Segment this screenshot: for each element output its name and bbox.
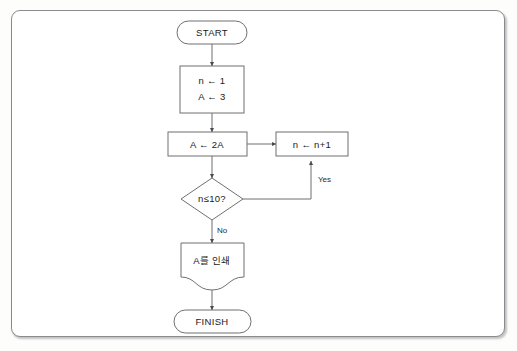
edge-label-no: No: [217, 226, 228, 235]
node-double-label: A ← 2A: [190, 139, 224, 150]
node-start[interactable]: START: [177, 21, 247, 44]
node-increment-label: n ← n+1: [293, 139, 331, 150]
node-increment[interactable]: n ← n+1: [276, 132, 348, 156]
node-finish-label: FINISH: [196, 316, 229, 327]
figure-page: Yes No START n ← 1 A ← 3 A ← 2A: [0, 0, 517, 351]
node-init-line1: n ← 1: [199, 75, 226, 86]
node-decision-label: n≤10?: [198, 193, 226, 204]
node-print[interactable]: A를 인쇄: [181, 243, 244, 290]
node-init[interactable]: n ← 1 A ← 3: [180, 66, 244, 113]
flowchart-canvas: Yes No START n ← 1 A ← 3 A ← 2A: [0, 0, 517, 351]
node-start-label: START: [196, 27, 228, 38]
node-decision[interactable]: n≤10?: [181, 178, 243, 220]
node-init-shape: [180, 66, 244, 113]
node-print-shape: [181, 243, 244, 290]
node-double[interactable]: A ← 2A: [168, 132, 247, 156]
node-finish[interactable]: FINISH: [174, 310, 251, 333]
node-init-line2: A ← 3: [198, 91, 225, 102]
node-print-label: A를 인쇄: [193, 255, 230, 266]
edge-decision-no: No: [212, 220, 228, 243]
edge-decision-yes: Yes: [243, 161, 331, 199]
edge-label-yes: Yes: [318, 175, 331, 184]
edge-decision-yes-path: [243, 161, 311, 199]
